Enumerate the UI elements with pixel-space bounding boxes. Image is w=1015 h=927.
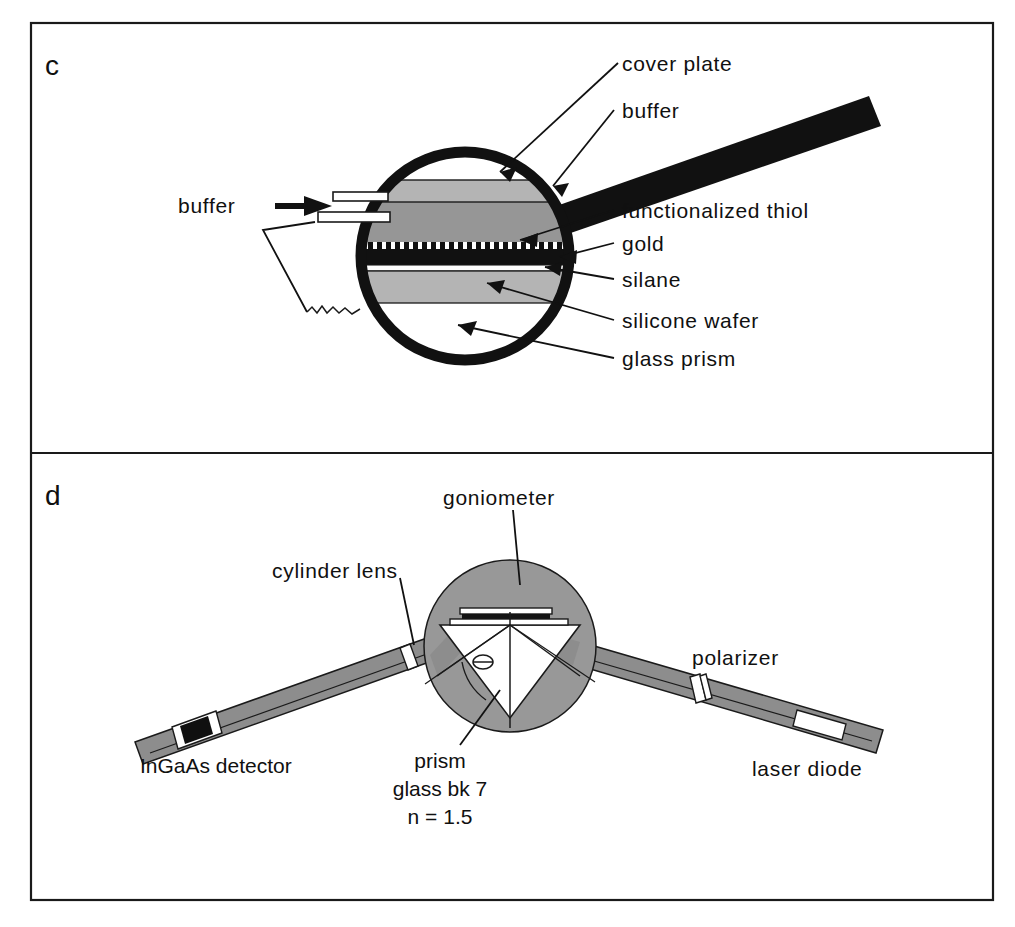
panel-d: d <box>45 480 883 828</box>
panel-c-letter: c <box>45 50 59 81</box>
label-buffer-inlet: buffer <box>178 194 236 217</box>
cover-plate-on-prism <box>460 608 552 614</box>
panel-c: c <box>45 50 881 370</box>
figure-root: c <box>0 0 1015 927</box>
sensor-chip-on-prism <box>450 619 568 625</box>
label-cylinder-lens: cylinder lens <box>272 559 398 582</box>
label-laser-diode: laser diode <box>752 757 862 780</box>
gold-film-on-prism <box>462 614 550 619</box>
label-cover-plate: cover plate <box>622 52 732 75</box>
gold-layer <box>352 251 592 265</box>
leader-buffer <box>553 110 614 197</box>
panel-d-letter: d <box>45 480 61 511</box>
label-buffer: buffer <box>622 99 680 122</box>
leader-cylinder-lens <box>400 578 414 645</box>
buffer-inlet-tube-lower <box>318 212 390 222</box>
label-prism-line1: prism <box>414 749 465 772</box>
torn-edge <box>307 306 360 314</box>
label-polarizer: polarizer <box>692 646 779 669</box>
buffer-inlet-tube-upper <box>333 192 388 201</box>
label-prism-line2: glass bk 7 <box>393 777 488 800</box>
label-ingaas-detector: InGaAs detector <box>140 754 292 777</box>
label-gold: gold <box>622 232 665 255</box>
label-prism-line3: n = 1.5 <box>408 805 473 828</box>
magnifier-callout-wedge <box>263 222 315 312</box>
label-glass-prism: glass prism <box>622 347 736 370</box>
scientific-figure: c <box>0 0 1015 927</box>
label-goniometer: goniometer <box>443 486 555 509</box>
label-silicone-wafer: silicone wafer <box>622 309 759 332</box>
label-functionalized-thiol: functionalized thiol <box>622 199 809 222</box>
label-silane: silane <box>622 268 681 291</box>
detector-arm <box>135 628 463 764</box>
